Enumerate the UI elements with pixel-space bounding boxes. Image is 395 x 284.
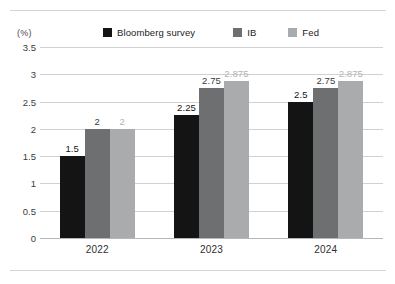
bar-value-label: 2.25 (177, 102, 196, 113)
bar-group-2022: 1.522 (60, 47, 135, 238)
y-axis-unit-label: (%) (17, 28, 32, 38)
y-axis-tick-label: 0 (2, 233, 36, 244)
y-axis-tick-label: 2 (2, 123, 36, 134)
bar-value-label: 2.75 (316, 75, 335, 86)
x-axis-label-2024: 2024 (314, 244, 337, 255)
bar-fed-2023[interactable]: 2.875 (224, 81, 249, 238)
legend-item-ib[interactable]: IB (233, 26, 256, 39)
legend-label: Bloomberg survey (117, 27, 195, 38)
bar-bloomberg-survey-2023[interactable]: 2.25 (174, 115, 199, 238)
y-axis-tick-label: 0.5 (2, 205, 36, 216)
bar-bloomberg-survey-2022[interactable]: 1.5 (60, 156, 85, 238)
legend-item-bloomberg-survey[interactable]: Bloomberg survey (103, 26, 195, 39)
bar-fed-2024[interactable]: 2.875 (338, 81, 363, 238)
legend-swatch-icon (103, 28, 112, 37)
legend-label: IB (247, 27, 256, 38)
x-axis-label-2022: 2022 (86, 244, 109, 255)
legend-label: Fed (302, 27, 319, 38)
y-axis-tick-label: 1.5 (2, 151, 36, 162)
bar-group-2023: 2.252.752.875 (174, 47, 249, 238)
bar-value-label: 2 (119, 116, 124, 127)
legend-swatch-icon (233, 28, 242, 37)
x-axis-category-labels: 202220232024 (40, 244, 383, 260)
legend-swatch-icon (288, 28, 297, 37)
bar-fed-2022[interactable]: 2 (110, 129, 135, 238)
y-axis-tick-label: 1 (2, 178, 36, 189)
bar-value-label: 2.875 (339, 68, 363, 79)
y-axis-tick-label: 3.5 (2, 42, 36, 53)
chart-legend: Bloomberg surveyIBFed (103, 26, 319, 39)
y-axis-tick-label: 3 (2, 69, 36, 80)
bar-value-label: 2.75 (202, 75, 221, 86)
axis-baseline (40, 238, 383, 239)
chart-figure: (%) Bloomberg surveyIBFed 00.511.522.533… (0, 0, 395, 284)
y-axis-tick-labels: 00.511.522.533.5 (0, 47, 36, 238)
legend-item-fed[interactable]: Fed (288, 26, 319, 39)
bar-value-label: 2.875 (224, 68, 248, 79)
x-axis-label-2023: 2023 (200, 244, 223, 255)
bar-value-label: 2.5 (294, 89, 308, 100)
bar-value-label: 1.5 (65, 143, 79, 154)
bar-ib-2022[interactable]: 2 (85, 129, 110, 238)
y-axis-tick-label: 2.5 (2, 96, 36, 107)
bar-groups: 1.5222.252.752.8752.52.752.875 (40, 47, 383, 238)
bar-bloomberg-survey-2024[interactable]: 2.5 (288, 102, 313, 238)
top-divider-rule (10, 10, 386, 11)
bar-ib-2023[interactable]: 2.75 (199, 88, 224, 238)
bar-group-2024: 2.52.752.875 (288, 47, 363, 238)
bar-ib-2024[interactable]: 2.75 (313, 88, 338, 238)
bar-value-label: 2 (94, 116, 99, 127)
bottom-divider-rule (10, 270, 386, 271)
